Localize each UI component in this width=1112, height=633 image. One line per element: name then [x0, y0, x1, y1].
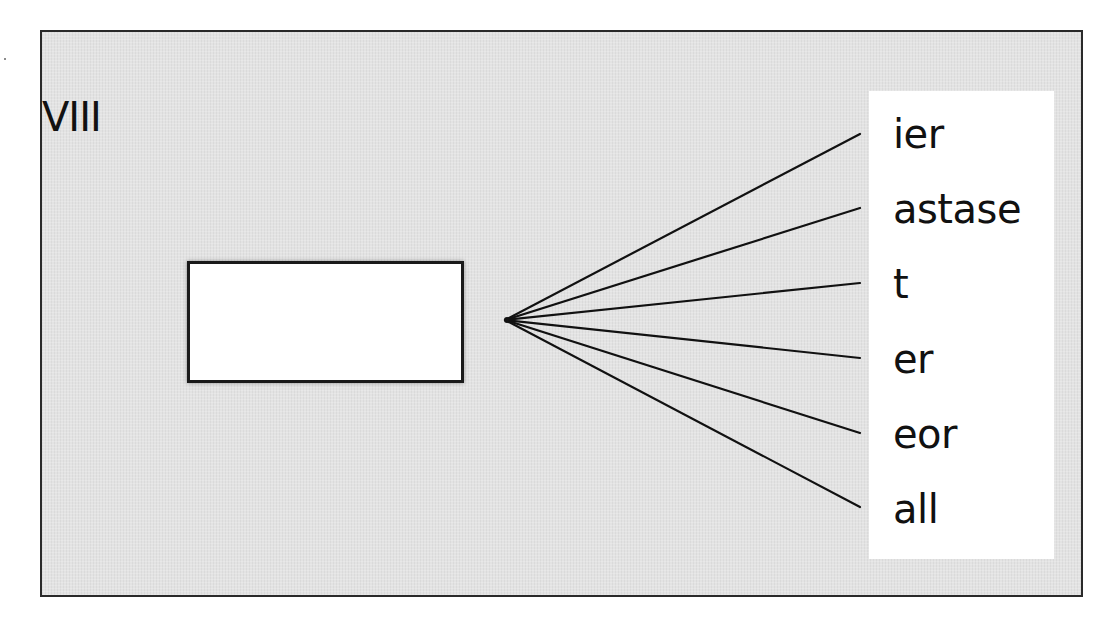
- hub-point: [504, 317, 510, 323]
- connector-line: [505, 320, 860, 358]
- connector-line: [505, 208, 860, 320]
- label-all: all: [893, 489, 938, 529]
- label-er: er: [893, 339, 933, 379]
- label-ier: ier: [893, 114, 944, 154]
- connector-line: [505, 134, 860, 320]
- label-t: t: [893, 264, 908, 304]
- connector-line: [505, 283, 860, 320]
- fan-lines: [0, 0, 1112, 633]
- connector-line: [505, 320, 860, 507]
- label-eor: eor: [893, 414, 957, 454]
- connector-line: [505, 320, 860, 433]
- label-astase: astase: [893, 189, 1021, 229]
